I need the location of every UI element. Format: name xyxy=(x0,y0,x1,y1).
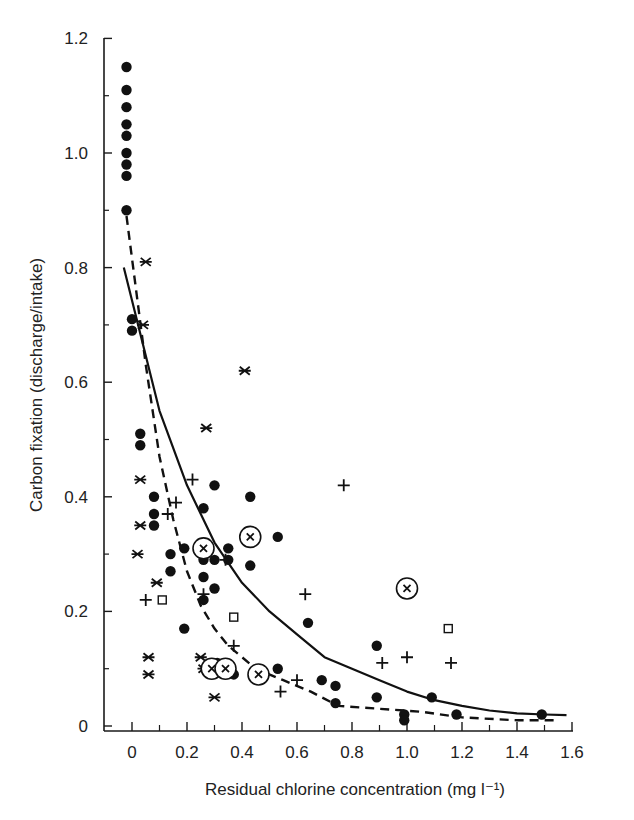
filled-circle-marker xyxy=(209,480,219,490)
filled-circle-marker xyxy=(135,440,145,450)
plus-marker xyxy=(376,657,388,669)
open-square-marker xyxy=(158,596,166,604)
filled-circle-marker xyxy=(165,549,175,559)
plus-marker xyxy=(275,686,287,698)
filled-circle-marker xyxy=(121,119,131,129)
asterisk-marker xyxy=(140,258,152,266)
plus-marker xyxy=(228,640,240,652)
filled-circle-marker xyxy=(165,566,175,576)
axes xyxy=(104,38,573,731)
plus-marker xyxy=(291,674,303,686)
asterisk-marker xyxy=(134,476,146,484)
y-tick-label: 0 xyxy=(79,717,88,736)
asterisk-marker xyxy=(132,550,144,558)
y-tick-label: 0.8 xyxy=(64,259,88,278)
plus-marker xyxy=(445,657,457,669)
circled-x-marker xyxy=(240,526,261,547)
x-tick-label: 1.2 xyxy=(450,743,474,762)
y-tick-label: 1.2 xyxy=(64,29,88,48)
x-tick-label: 1.4 xyxy=(505,743,529,762)
solid-fit-curve xyxy=(124,268,567,715)
asterisk-marker xyxy=(143,670,155,678)
filled-circle-marker xyxy=(330,698,340,708)
filled-circle-marker xyxy=(372,641,382,651)
y-axis-title: Carbon fixation (discharge/intake) xyxy=(27,258,46,512)
filled-circle-marker xyxy=(273,532,283,542)
filled-circle-marker xyxy=(149,520,159,530)
filled-circle-marker xyxy=(179,543,189,553)
y-tick-label: 0.2 xyxy=(64,602,88,621)
filled-circle-marker xyxy=(427,692,437,702)
x-tick-label: 0 xyxy=(127,743,136,762)
plus-marker xyxy=(187,474,199,486)
x-ticks: 00.20.40.60.81.01.21.41.6 xyxy=(127,722,584,762)
scatter-chart: 00.20.40.60.81.01.2 00.20.40.60.81.01.21… xyxy=(0,0,634,820)
filled-circle-marker xyxy=(198,503,208,513)
asterisk-marker xyxy=(200,424,212,432)
plus-marker xyxy=(401,651,413,663)
filled-circle-marker xyxy=(127,325,137,335)
plus-marker xyxy=(170,497,182,509)
filled-circle-marker xyxy=(330,681,340,691)
x-axis-title: Residual chlorine concentration (mg l⁻¹) xyxy=(205,780,505,799)
filled-circle-marker xyxy=(198,572,208,582)
circled-x-marker xyxy=(397,578,418,599)
circled-x-marker xyxy=(248,664,269,685)
filled-circle-marker xyxy=(372,692,382,702)
x-tick-label: 0.8 xyxy=(340,743,364,762)
filled-circle-marker xyxy=(223,543,233,553)
filled-circle-marker xyxy=(317,675,327,685)
filled-circle-marker xyxy=(537,709,547,719)
x-tick-label: 1.0 xyxy=(395,743,419,762)
filled-circle-marker xyxy=(121,62,131,72)
y-tick-label: 0.4 xyxy=(64,488,88,507)
x-tick-label: 1.6 xyxy=(560,743,584,762)
asterisk-marker xyxy=(239,367,251,375)
x-tick-label: 0.4 xyxy=(230,743,254,762)
x-tick-label: 0.6 xyxy=(285,743,309,762)
filled-circle-marker xyxy=(451,709,461,719)
filled-circle-marker xyxy=(303,618,313,628)
dashed-fit-curve xyxy=(127,216,559,720)
asterisk-marker xyxy=(209,693,221,701)
plus-marker xyxy=(140,594,152,606)
plus-marker xyxy=(338,479,350,491)
filled-circle-marker xyxy=(209,583,219,593)
y-ticks: 00.20.40.60.81.01.2 xyxy=(64,29,112,736)
y-tick-label: 0.6 xyxy=(64,373,88,392)
plus-marker xyxy=(299,588,311,600)
filled-circle-marker xyxy=(179,623,189,633)
filled-circle-marker xyxy=(149,509,159,519)
filled-circle-marker xyxy=(149,492,159,502)
filled-circle-marker xyxy=(121,85,131,95)
filled-circle-marker xyxy=(273,664,283,674)
filled-circle-marker xyxy=(121,205,131,215)
asterisk-marker xyxy=(143,653,155,661)
filled-circle-marker xyxy=(127,314,137,324)
filled-circle-marker xyxy=(121,148,131,158)
data-points xyxy=(121,62,547,726)
asterisk-marker xyxy=(151,579,163,587)
filled-circle-marker xyxy=(121,171,131,181)
filled-circle-marker xyxy=(135,429,145,439)
asterisk-marker xyxy=(134,521,146,529)
x-tick-label: 0.2 xyxy=(175,743,199,762)
filled-circle-marker xyxy=(399,715,409,725)
filled-circle-marker xyxy=(121,131,131,141)
open-square-marker xyxy=(444,625,452,633)
y-tick-label: 1.0 xyxy=(64,144,88,163)
filled-circle-marker xyxy=(121,159,131,169)
open-square-marker xyxy=(230,613,238,621)
asterisk-marker xyxy=(137,321,149,329)
circled-x-marker xyxy=(215,658,236,679)
circled-x-marker xyxy=(193,538,214,559)
fit-curves xyxy=(124,216,567,720)
filled-circle-marker xyxy=(121,102,131,112)
filled-circle-marker xyxy=(245,560,255,570)
filled-circle-marker xyxy=(245,492,255,502)
